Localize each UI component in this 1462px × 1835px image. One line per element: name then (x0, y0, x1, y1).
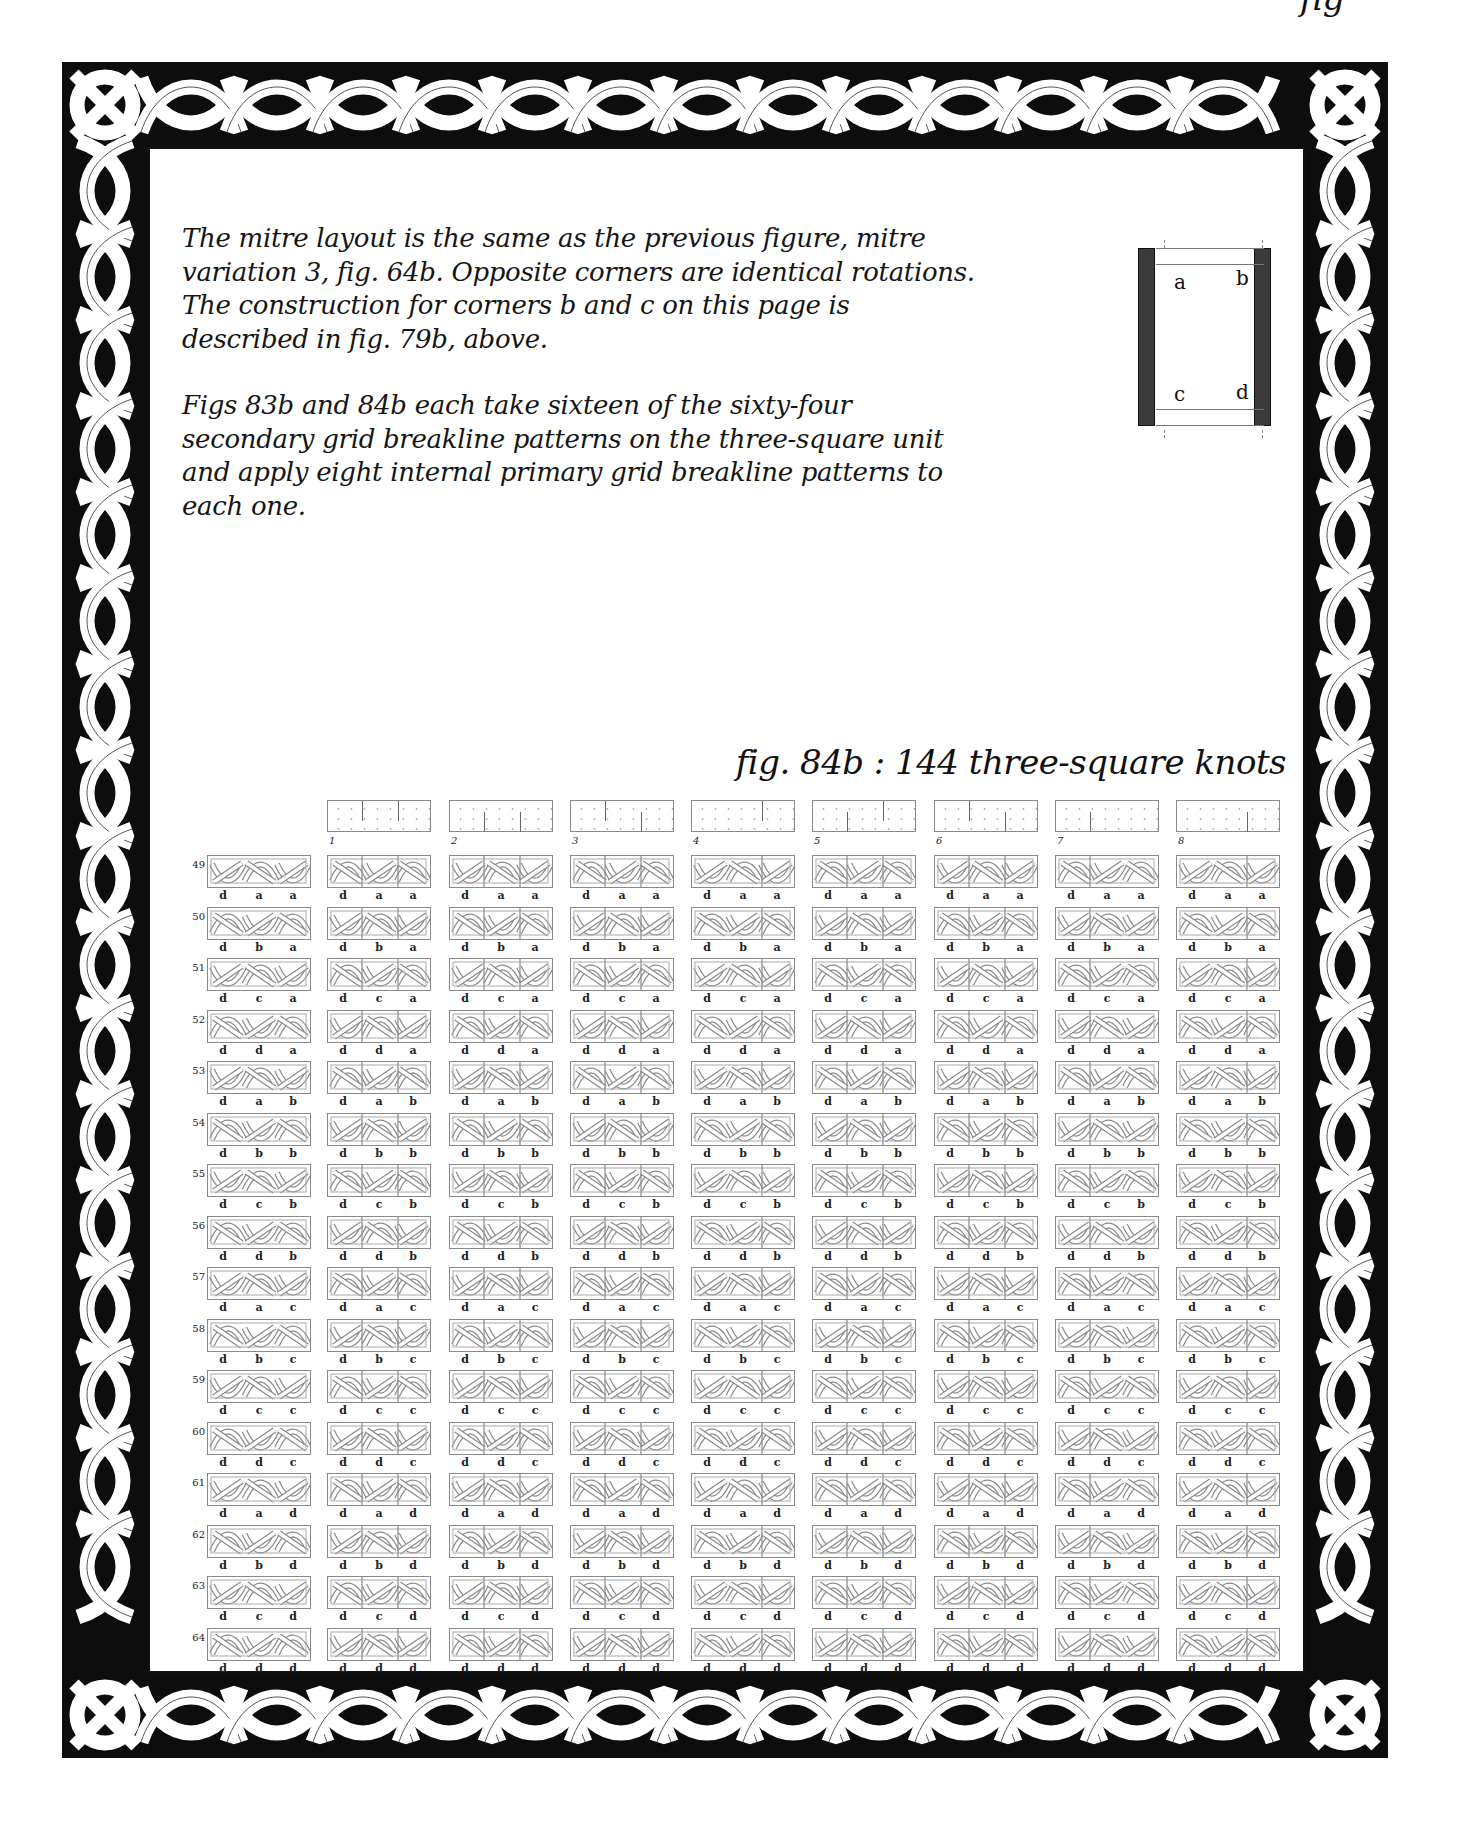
corner-letter: a (650, 992, 662, 1005)
corner-letter: d (459, 1044, 471, 1057)
knot-corner-labels: ddb (812, 1250, 916, 1262)
corner-letter: c (1135, 1353, 1147, 1366)
corner-letter: c (1256, 1456, 1268, 1469)
corner-letter: d (701, 1456, 713, 1469)
corner-letter: d (580, 1353, 592, 1366)
knot-corner-labels: ddb (570, 1250, 674, 1262)
corner-letter: d (253, 1456, 265, 1469)
corner-letter: d (217, 1250, 229, 1263)
three-square-knot (570, 1628, 674, 1661)
three-square-knot (1055, 1473, 1159, 1506)
three-square-knot (207, 1525, 311, 1558)
corner-letter: c (1014, 1456, 1026, 1469)
corner-letter: b (495, 1559, 507, 1572)
corner-letter: d (217, 1404, 229, 1417)
three-square-knot (934, 1576, 1038, 1609)
corner-letter: b (737, 1353, 749, 1366)
knot-corner-labels: daa (934, 889, 1038, 901)
corner-label-c: c (1174, 382, 1185, 406)
three-square-knot (812, 1628, 916, 1661)
breakline (1005, 812, 1006, 832)
row-number: 58 (177, 1323, 205, 1334)
corner-letter: c (650, 1353, 662, 1366)
corner-letter: d (1186, 1250, 1198, 1263)
three-square-knot (570, 1473, 674, 1506)
corner-letter: d (253, 1250, 265, 1263)
corner-letter: a (616, 1095, 628, 1108)
corner-letter: d (1065, 1610, 1077, 1623)
three-square-knot (570, 1576, 674, 1609)
corner-letter: a (1101, 1301, 1113, 1314)
corner-letter: c (1014, 1353, 1026, 1366)
corner-letter: d (858, 1662, 870, 1675)
diagram-tick (1164, 430, 1165, 438)
corner-letter: d (217, 941, 229, 954)
breakline (762, 801, 763, 821)
breakline-pattern-box (1055, 800, 1159, 832)
three-square-knot (449, 1422, 553, 1455)
corner-letter: c (495, 1198, 507, 1211)
corner-letter: d (892, 1610, 904, 1623)
corner-letter: d (822, 1404, 834, 1417)
knot-corner-labels: dcb (207, 1198, 311, 1210)
three-square-knot (207, 855, 311, 888)
three-square-knot (570, 907, 674, 940)
corner-letter: d (892, 1507, 904, 1520)
corner-letter: c (287, 1301, 299, 1314)
corner-letter: b (737, 1147, 749, 1160)
knot-corner-labels: dda (327, 1044, 431, 1056)
corner-letter: d (822, 941, 834, 954)
corner-letter: a (616, 889, 628, 902)
corner-letter: d (892, 1559, 904, 1572)
three-square-knot (449, 1010, 553, 1043)
corner-letter: d (650, 1610, 662, 1623)
corner-letter: d (1065, 1662, 1077, 1675)
corner-letter: d (771, 1610, 783, 1623)
corner-letter: d (822, 889, 834, 902)
knot-corner-labels: dba (327, 941, 431, 953)
corner-letter: b (529, 1147, 541, 1160)
knot-corner-labels: dbb (812, 1147, 916, 1159)
three-square-knot (327, 1628, 431, 1661)
knot-corner-labels: daa (691, 889, 795, 901)
corner-letter: d (1186, 1095, 1198, 1108)
diagram-line (1156, 264, 1264, 265)
corner-letter: c (407, 1353, 419, 1366)
knot-corner-labels: dcd (812, 1610, 916, 1622)
breakline (969, 801, 970, 821)
corner-letter: d (858, 1456, 870, 1469)
corner-letter: c (771, 1301, 783, 1314)
corner-letter: d (822, 1044, 834, 1057)
knot-corner-labels: dcc (1176, 1404, 1280, 1416)
breakline (362, 801, 363, 821)
corner-letter: b (529, 1250, 541, 1263)
corner-letter: b (253, 941, 265, 954)
corner-letter: b (373, 941, 385, 954)
corner-letter: d (1256, 1507, 1268, 1520)
knot-corner-labels: dac (1176, 1301, 1280, 1313)
corner-letter: a (858, 1301, 870, 1314)
corner-letter: d (1186, 1147, 1198, 1160)
three-square-knot (934, 1319, 1038, 1352)
knot-corner-labels: ddd (691, 1662, 795, 1674)
knot-corner-labels: ddd (327, 1662, 431, 1674)
three-square-knot (812, 855, 916, 888)
three-square-knot (570, 958, 674, 991)
corner-letter: d (337, 1044, 349, 1057)
corner-letter: a (529, 889, 541, 902)
corner-letter: c (1135, 1456, 1147, 1469)
row-number: 60 (177, 1426, 205, 1437)
corner-letter: c (616, 1610, 628, 1623)
knot-corner-labels: dcc (207, 1404, 311, 1416)
corner-letter: a (1014, 992, 1026, 1005)
corner-letter: b (1256, 1198, 1268, 1211)
corner-letter: c (892, 1456, 904, 1469)
knot-corner-labels: dca (1176, 992, 1280, 1004)
corner-letter: a (495, 1301, 507, 1314)
corner-letter: a (373, 889, 385, 902)
knot-corner-labels: dba (207, 941, 311, 953)
knot-corner-labels: dba (934, 941, 1038, 953)
corner-letter: d (944, 1456, 956, 1469)
corner-letter: d (1256, 1662, 1268, 1675)
breakline (641, 812, 642, 832)
